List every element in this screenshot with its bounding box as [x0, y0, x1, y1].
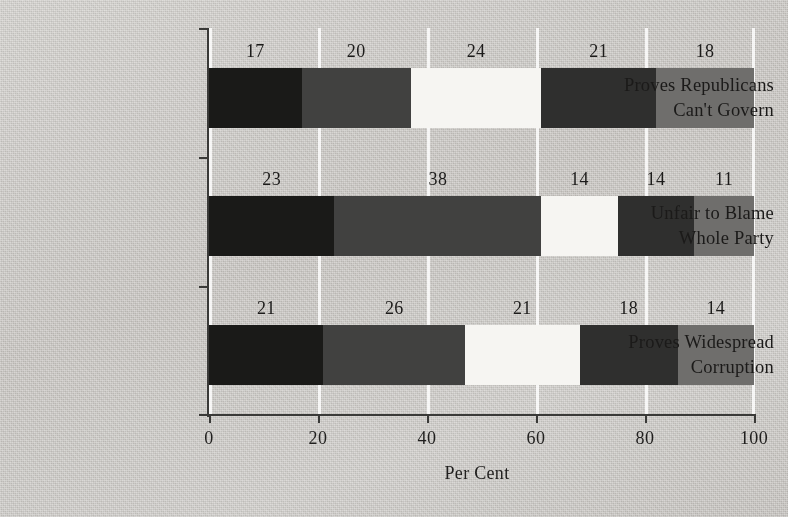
category-label-1: Unfair to Blame Whole Party: [592, 201, 788, 251]
category-label-line2: Can't Govern: [592, 98, 774, 123]
bar-segment: [209, 196, 334, 256]
bar-segment: [209, 68, 302, 128]
x-axis-tick-label: 40: [397, 428, 457, 449]
y-axis-tick: [199, 286, 209, 288]
bar-value-label: 24: [411, 41, 542, 62]
category-label-line2: Whole Party: [592, 226, 774, 251]
x-axis-tick: [754, 414, 756, 423]
y-axis-line: [207, 28, 209, 417]
category-label-0: Proves Republicans Can't Govern: [592, 73, 788, 123]
x-axis-tick-label: 100: [724, 428, 784, 449]
chart-figure: 1720242118 2338141411 2126211814 0204060…: [0, 0, 788, 517]
x-axis-tick-label: 60: [506, 428, 566, 449]
bar-segment: [465, 325, 579, 385]
x-axis-tick-label: 0: [179, 428, 239, 449]
x-axis-tick: [427, 414, 429, 423]
x-axis-tick-label: 20: [288, 428, 348, 449]
bar-segment: [323, 325, 465, 385]
x-axis-line: [207, 414, 756, 416]
bar-value-label: 11: [694, 169, 754, 190]
y-axis-tick: [199, 414, 209, 416]
bar-segment: [411, 68, 542, 128]
bar-value-label: 23: [209, 169, 334, 190]
bar-segment: [302, 68, 411, 128]
bar-value-label: 21: [209, 298, 323, 319]
bar-value-label: 21: [541, 41, 655, 62]
category-label-line2: Corruption: [592, 355, 774, 380]
bar-value-label: 14: [618, 169, 694, 190]
x-axis-title-text: Per Cent: [445, 463, 510, 483]
bar-value-label: 20: [302, 41, 411, 62]
bar-value-label: 26: [323, 298, 465, 319]
category-label-line1: Proves Widespread: [592, 330, 774, 355]
x-axis-tick-label: 80: [615, 428, 675, 449]
category-label-2: Proves Widespread Corruption: [592, 330, 788, 380]
bar-value-label: 17: [209, 41, 302, 62]
category-label-line1: Unfair to Blame: [592, 201, 774, 226]
bar-segment: [334, 196, 541, 256]
bar-value-label: 38: [334, 169, 541, 190]
x-axis-title: Per Cent: [0, 463, 788, 484]
bar-value-label: 14: [541, 169, 617, 190]
y-axis-tick: [199, 157, 209, 159]
x-axis-tick: [536, 414, 538, 423]
x-axis-tick: [645, 414, 647, 423]
bar-segment: [209, 325, 323, 385]
x-axis-tick: [318, 414, 320, 423]
x-axis-tick: [209, 414, 211, 423]
bar-value-label: 18: [580, 298, 678, 319]
bar-value-label: 21: [465, 298, 579, 319]
y-axis-tick: [199, 28, 209, 30]
bar-value-label: 18: [656, 41, 754, 62]
category-label-line1: Proves Republicans: [592, 73, 774, 98]
bar-value-label: 14: [678, 298, 754, 319]
